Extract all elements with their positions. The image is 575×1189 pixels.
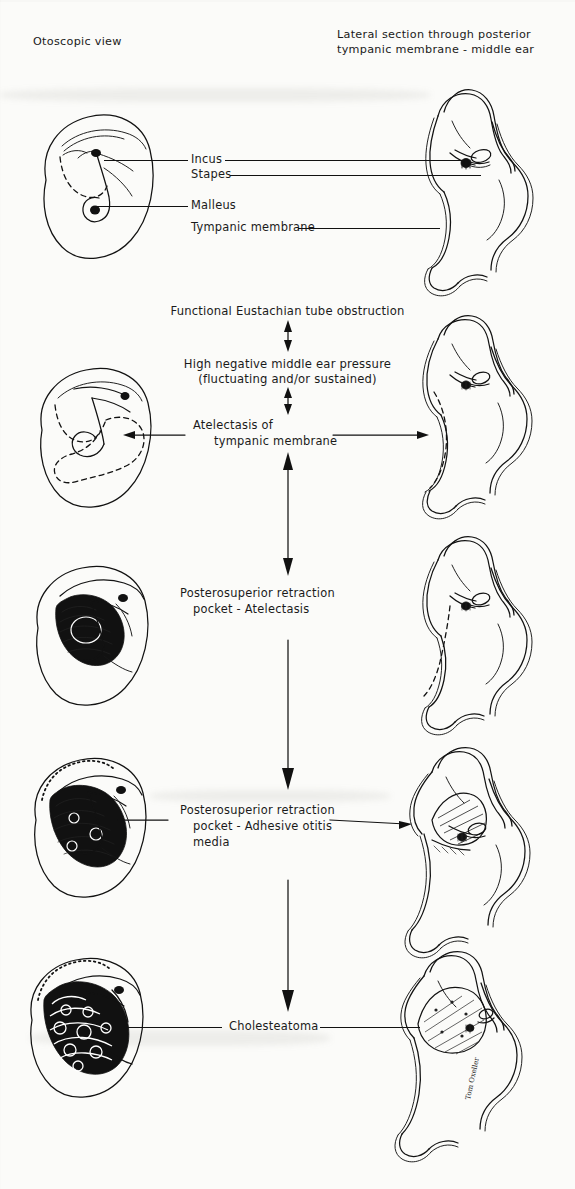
otoscopic-cholesteatoma: [31, 958, 143, 1097]
artist-signature: Tom Oxeller: [464, 1056, 481, 1100]
lateral-cholesteatoma: Tom Oxeller: [395, 952, 522, 1162]
figure-page: Otoscopic view Lateral section through p…: [0, 0, 575, 1189]
stage-cholesteatoma-drawings: Tom Oxeller: [0, 0, 575, 1189]
